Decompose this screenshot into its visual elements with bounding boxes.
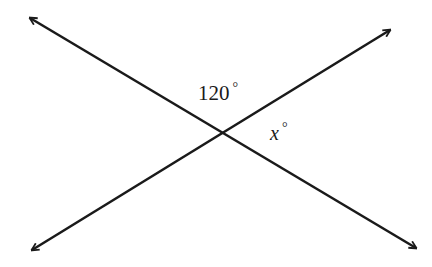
angle-variable: x (270, 122, 279, 144)
angle-value: 120 (198, 81, 230, 105)
line-b (32, 30, 390, 250)
degree-symbol: ° (282, 120, 288, 135)
angle-label-120: 120° (198, 80, 238, 106)
degree-symbol: ° (233, 80, 239, 95)
intersecting-lines-diagram (0, 0, 432, 267)
angle-label-x: x° (270, 120, 288, 145)
